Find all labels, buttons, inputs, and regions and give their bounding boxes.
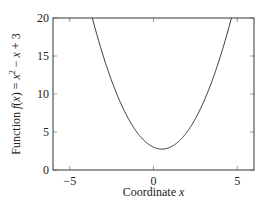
y-axis-label: Function f(x) = x2 − x + 3 (8, 33, 23, 154)
x-tick-label: 5 (234, 174, 240, 188)
function-curve (92, 15, 233, 149)
y-tick-label: 15 (37, 49, 49, 63)
y-tick-label: 10 (37, 87, 49, 101)
y-tick-label: 0 (43, 163, 49, 177)
function-line (92, 15, 233, 149)
x-axis-label: Coordinate x (123, 185, 185, 199)
y-axis-ticks: 05101520 (37, 11, 254, 177)
x-axis-ticks: −505 (63, 18, 240, 188)
y-tick-label: 20 (37, 11, 49, 25)
y-tick-label: 5 (43, 125, 49, 139)
x-tick-label: −5 (63, 174, 76, 188)
chart: −505 05101520 Coordinate x Function f(x)… (0, 0, 266, 213)
